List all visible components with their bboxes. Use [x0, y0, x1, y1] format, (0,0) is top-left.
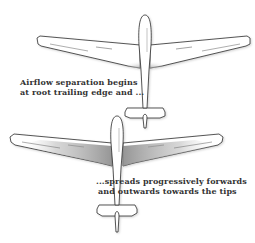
fin [115, 212, 119, 233]
right-wing [150, 36, 250, 68]
caption-line: Airflow separation begins [20, 77, 144, 87]
caption-line: ...spreads progressively forwards [96, 176, 247, 186]
glider-stage-1 [37, 15, 250, 128]
caption-stage-1: Airflow separation begins at root traili… [20, 77, 144, 97]
caption-stage-2: ...spreads progressively forwards and ou… [96, 176, 247, 196]
gliders-illustration [0, 0, 255, 243]
glider-stage-2 [10, 116, 223, 232]
stall-diagram: Airflow separation begins at root traili… [0, 0, 255, 243]
caption-line: and outwards towards the tips [96, 186, 247, 196]
caption-line: at root trailing edge and ... [20, 87, 144, 97]
left-wing [37, 36, 140, 68]
fin [143, 114, 147, 128]
